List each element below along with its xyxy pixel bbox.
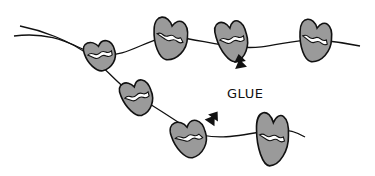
bean-7 xyxy=(253,112,290,167)
bean-6 xyxy=(169,118,210,161)
bean-3 xyxy=(213,18,251,64)
bean-2 xyxy=(149,16,190,63)
bean-1 xyxy=(82,38,118,73)
bean-5 xyxy=(118,77,157,119)
glue-label: GLUE xyxy=(227,86,263,101)
arrow-lower-icon xyxy=(205,108,223,126)
glue-illustration xyxy=(0,0,375,176)
bean-4 xyxy=(295,18,335,64)
beans xyxy=(82,16,334,167)
